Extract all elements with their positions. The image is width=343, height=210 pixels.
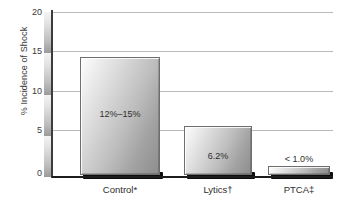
- gridline-20: [52, 12, 333, 13]
- bar-value-label-control: 12%–15%: [80, 109, 160, 119]
- bar-value-label-lytics: 6.2%: [184, 151, 252, 161]
- bar-body: [268, 166, 330, 175]
- bar-lytics[interactable]: 6.2%: [184, 126, 252, 177]
- y-axis-line: [51, 10, 53, 178]
- y-axis-tick-labels: 20 15 10 5 0: [8, 12, 42, 177]
- x-axis-label-lytics: Lytics†: [184, 184, 252, 195]
- x-axis-label-control: Control*: [80, 184, 160, 195]
- y-tick-label-5: 5: [16, 126, 42, 135]
- y-tick-label-20: 20: [16, 8, 42, 17]
- y-tick-label-10: 10: [16, 87, 42, 96]
- bar-control[interactable]: 12%–15%: [80, 57, 160, 177]
- y-tick-label-0: 0: [16, 169, 42, 178]
- y-tick-label-15: 15: [16, 47, 42, 56]
- gridline-15: [52, 51, 333, 52]
- plot-area: 12%–15% 6.2% < 1.0%: [52, 12, 333, 177]
- x-axis-line: [52, 176, 333, 178]
- bar-value-label-ptca: < 1.0%: [268, 154, 330, 164]
- x-axis-label-ptca: PTCA‡: [268, 184, 330, 195]
- bar-chart: % Incidence of Shock 20 15 10 5 0 12%–15…: [0, 0, 343, 210]
